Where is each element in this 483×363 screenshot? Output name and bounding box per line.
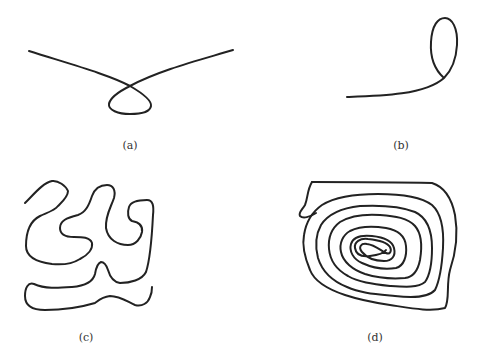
panel-d-label: (d) [367,331,383,344]
panel-b-curve [347,18,457,97]
panel-d-curve [299,182,456,310]
panel-c-curve [25,181,153,310]
panel-b-label: (b) [393,139,409,152]
panel-a-label: (a) [122,139,137,152]
figure-canvas [0,0,483,363]
panel-c-label: (c) [79,331,94,344]
panel-a-curve [29,50,233,114]
